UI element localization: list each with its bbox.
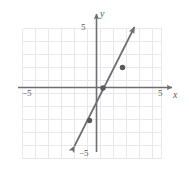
x-axis-tick-label-positive-five: 5 [158, 89, 163, 98]
grid-lines [23, 29, 162, 159]
data-point [100, 85, 105, 90]
y-axis-tick-label-negative-five: −5 [79, 149, 89, 158]
data-point [87, 118, 92, 123]
y-axis-name-label: y [100, 9, 104, 19]
x-axis-tick-label-negative-five: −5 [22, 89, 32, 98]
graph-canvas [0, 0, 189, 174]
y-axis-tick-label-positive-five: 5 [81, 23, 86, 32]
x-axis-name-label: x [173, 90, 177, 100]
coordinate-plane-figure: −5 5 5 −5 x y [0, 0, 189, 174]
data-point [120, 65, 125, 70]
